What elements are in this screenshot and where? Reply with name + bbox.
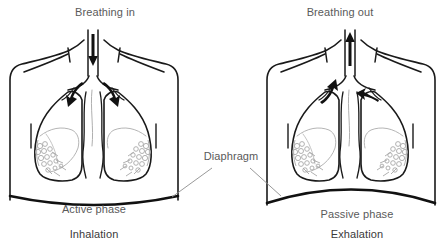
torso-outline-left [10,40,84,200]
mediastinum-inner-2 [348,90,349,146]
bronchus-right-2 [354,76,375,90]
lung-right [104,91,151,180]
lung-right-fissure [107,128,146,148]
clavicle-right [120,54,164,72]
label-active-phase: Active phase [62,203,126,215]
diaphragm-exhalation [267,190,435,204]
mediastinum-right-edge [100,92,103,178]
breathing-mechanics-diagram: Breathing in Breathing out Diaphragm Act… [0,0,445,247]
panel-exhalation [267,30,435,205]
alveoli-cluster-left [35,140,66,176]
clavicle-left-2 [281,54,325,72]
lung-left-2 [292,91,339,180]
leader-line-right [250,168,281,196]
alveoli-cluster-right [120,140,151,176]
airflow-arrow-trachea-in [88,34,98,66]
airflow-arrow-trachea-out [345,32,355,66]
clavicle-right-2 [377,54,421,72]
label-diaphragm: Diaphragm [204,150,259,162]
panel-inhalation [10,30,178,205]
lung-right-fissure-2 [364,128,403,148]
mediastinum-left-edge [83,92,86,178]
alveoli-cluster-left-2 [292,140,323,176]
caption-exhalation: Exhalation [331,228,383,240]
label-breathing-in: Breathing in [75,6,135,18]
mediastinum-right-edge-2 [357,92,360,178]
clavicle-left [24,54,68,72]
torso-outline-right [104,40,178,200]
mediastinum-inner [91,90,92,146]
lung-left [35,91,82,180]
lung-right-2 [361,91,408,180]
alveoli-cluster-right-2 [377,140,408,176]
mediastinum-left-edge-2 [340,92,343,178]
caption-inhalation: Inhalation [70,228,119,240]
label-breathing-out: Breathing out [307,6,374,18]
label-passive-phase: Passive phase [321,208,394,220]
